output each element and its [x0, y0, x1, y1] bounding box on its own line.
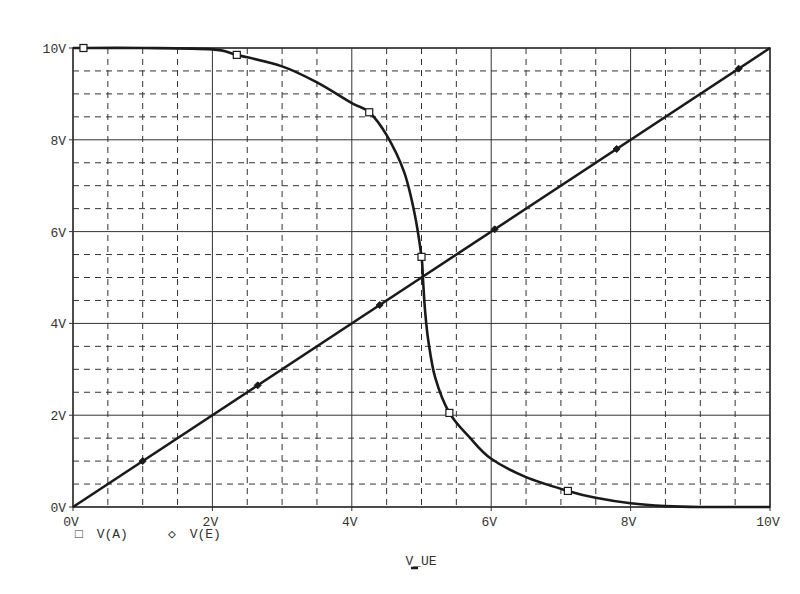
square-marker-icon: □ — [75, 527, 83, 542]
legend-label-ve: V(E) — [190, 527, 221, 542]
x-tick-label: 8V — [621, 515, 637, 530]
legend-item-va: □ V(A) — [75, 527, 128, 542]
y-tick-label: 10V — [43, 42, 67, 57]
diamond-marker-icon: ◇ — [168, 527, 176, 542]
y-tick-label: 8V — [50, 134, 66, 149]
legend-item-ve: ◇ V(E) — [168, 527, 221, 542]
chart: 0V2V4V6V8V10V0V2V4V6V8V10V V_UE □ V(A) ◇… — [0, 0, 800, 594]
square-marker-icon — [233, 51, 240, 58]
square-marker-icon — [418, 253, 425, 260]
square-marker-icon — [366, 109, 373, 116]
y-tick-label: 2V — [50, 409, 66, 424]
x-tick-label: 10V — [756, 515, 780, 530]
square-marker-icon — [564, 487, 571, 494]
legend: □ V(A) ◇ V(E) — [75, 527, 221, 542]
y-tick-label: 4V — [50, 317, 66, 332]
square-marker-icon — [446, 409, 453, 416]
square-marker-icon — [80, 45, 87, 52]
legend-label-va: V(A) — [97, 527, 128, 542]
y-tick-label: 6V — [50, 226, 66, 241]
x-tick-label: 6V — [481, 515, 497, 530]
x-axis-label: V_UE — [405, 554, 436, 569]
y-tick-label: 0V — [50, 501, 66, 516]
x-tick-label: 4V — [342, 515, 358, 530]
